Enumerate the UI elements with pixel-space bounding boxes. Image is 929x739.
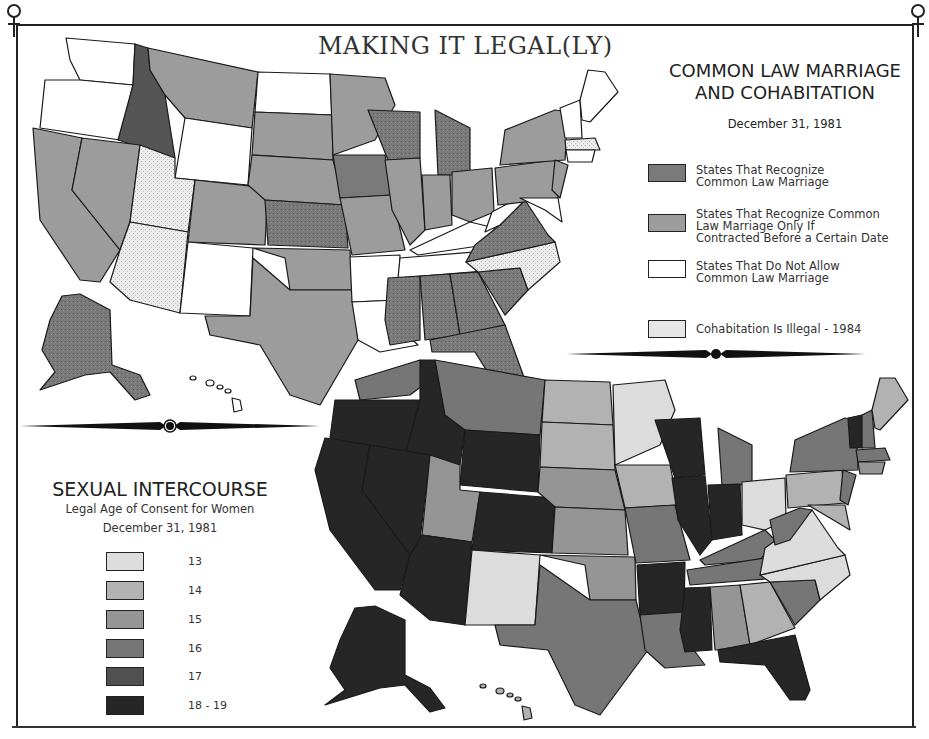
state-new-jersey [840,470,856,505]
state-indiana [708,484,742,540]
consent-age-map [0,0,929,739]
state-hawaii [480,684,532,720]
state-massachusetts [856,448,890,462]
state-mississippi [680,587,712,652]
state-vermont [848,415,862,448]
state-washington [355,360,430,400]
state-north-dakota [542,380,613,425]
state-alaska [325,606,445,712]
state-iowa [615,465,678,508]
state-arkansas [637,562,685,615]
state-connecticut-ri [858,462,885,474]
state-colorado [472,492,555,553]
state-new-york [790,418,858,472]
state-wyoming [460,430,540,492]
state-michigan [718,428,752,485]
state-kansas [552,507,628,555]
state-nebraska [538,467,625,510]
state-pennsylvania [786,470,845,508]
state-south-dakota [540,422,615,470]
state-maine [872,378,908,430]
state-new-mexico [465,550,540,625]
